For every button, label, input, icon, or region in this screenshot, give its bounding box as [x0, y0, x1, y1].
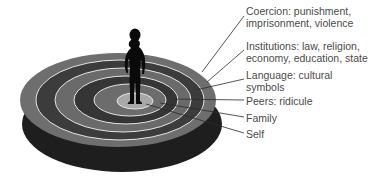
- label-coercion: Coercion: punishment, imprisonment, viol…: [246, 5, 353, 29]
- label-language-line-1: Language: cultural: [246, 69, 332, 81]
- label-institutions: Institutions: law, religion, economy, ed…: [246, 40, 368, 64]
- label-institutions-line-2: economy, education, state: [246, 52, 368, 64]
- label-language: Language: cultural symbols: [246, 69, 332, 93]
- label-coercion-line-1: Coercion: punishment,: [246, 5, 353, 17]
- leader-line-institutions: [207, 50, 244, 82]
- label-institutions-line-1: Institutions: law, religion,: [246, 40, 368, 52]
- label-language-line-2: symbols: [246, 81, 332, 93]
- label-family: Family: [246, 112, 277, 124]
- ring-self: [117, 93, 153, 109]
- label-self: Self: [246, 128, 264, 140]
- leader-line-coercion: [202, 16, 244, 72]
- label-peers-line-1: Peers: ridicule: [246, 95, 313, 107]
- rings-group: [20, 53, 216, 147]
- label-self-line-1: Self: [246, 128, 264, 140]
- label-peers: Peers: ridicule: [246, 95, 313, 107]
- label-coercion-line-2: imprisonment, violence: [246, 17, 353, 29]
- label-family-line-1: Family: [246, 112, 277, 124]
